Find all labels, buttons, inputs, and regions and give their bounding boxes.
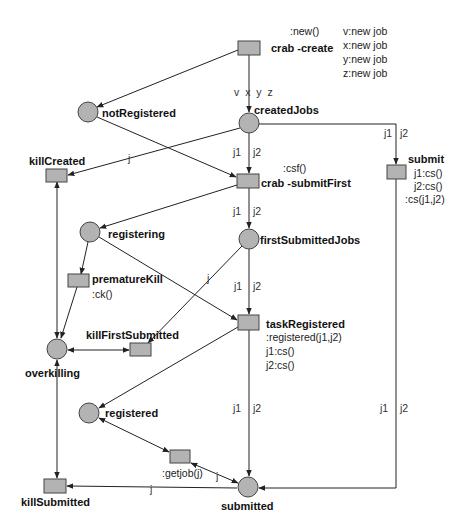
killfirstsubmitted-label: killFirstSubmitted <box>86 329 179 341</box>
submit-annotation-j1: j1:cs() <box>414 167 443 179</box>
arc-label-killcreated-j: j <box>128 152 130 164</box>
submit-annotation-cs: :cs(j1,j2) <box>405 193 445 205</box>
place-createdjobs <box>239 113 259 133</box>
arc-label-firstsubmitted-taskreg-j2: j2 <box>253 280 261 292</box>
transition-killfirstsubmitted <box>130 343 151 356</box>
arc-label-created-submit-j1: j1 <box>384 127 392 139</box>
arc-notregistered-to-submitfirst <box>97 117 236 177</box>
arc-registering-to-prematurekill <box>81 242 88 274</box>
taskregistered-annotation-j1: j1:cs() <box>266 345 295 357</box>
taskregistered-label: taskRegistered <box>266 318 345 330</box>
submitted-label: submitted <box>221 500 274 512</box>
arc-submitfirst-to-registering <box>100 185 237 228</box>
transition-getjob <box>170 450 190 463</box>
overkilling-label: overkilling <box>25 367 80 379</box>
arc-label-created-submitfirst-j2: j2 <box>253 146 261 158</box>
arc-label-submitted-killsubmitted-j: j <box>150 483 152 495</box>
arc-createdjobs-to-submit <box>259 124 396 164</box>
create-output-y: y:new job <box>343 53 387 65</box>
killsubmitted-label: killSubmitted <box>21 496 90 508</box>
submit-annotation-j2: j2:cs() <box>414 180 443 192</box>
killcreated-label: killCreated <box>29 155 85 167</box>
submitfirst-label: crab -submitFirst <box>261 177 351 189</box>
arc-create-to-notregistered <box>97 50 238 107</box>
create-output-z: z:new job <box>343 67 387 79</box>
create-output-x: x:new job <box>343 39 387 51</box>
notregistered-label: notRegistered <box>102 107 176 119</box>
registered-label: registered <box>105 407 158 419</box>
arc-label-firstsubmitted-taskreg-j1: j1 <box>234 280 242 292</box>
arc-label-submitfirst-first-j2: j2 <box>253 205 261 217</box>
arc-label-created-submit-j2: j2 <box>400 127 408 139</box>
registering-label: registering <box>108 228 165 240</box>
prematurekill-label: prematureKill <box>92 273 163 285</box>
firstsubmittedjobs-label: firstSubmittedJobs <box>260 234 360 246</box>
arc-label-created-submitfirst-j1: j1 <box>233 146 241 158</box>
transition-taskregistered <box>238 315 259 330</box>
crab-create-annotation: :new() <box>290 25 319 37</box>
arc-label-submitfirst-first-j1: j1 <box>233 205 241 217</box>
getjob-annotation: :getjob(j) <box>162 467 203 479</box>
place-notregistered <box>78 102 98 122</box>
submit-label: submit <box>408 153 444 165</box>
arc-label-firstsubmitted-killfirst-j: j <box>207 272 209 284</box>
arc-label-taskreg-submitted-j1: j1 <box>233 402 241 414</box>
place-registering <box>80 222 100 242</box>
taskregistered-annotation-j2: j2:cs() <box>266 359 295 371</box>
transition-submit <box>387 165 406 179</box>
place-registered <box>79 403 99 423</box>
prematurekill-annotation: :ck() <box>92 288 112 300</box>
transition-crab-create <box>238 41 260 55</box>
createdjobs-label: createdJobs <box>254 104 319 116</box>
create-output-v: v:new job <box>343 25 387 37</box>
arc-prematurekill-to-overkilling <box>61 287 77 338</box>
arc-label-taskreg-submitted-j2: j2 <box>253 402 261 414</box>
place-firstsubmittedjobs <box>239 229 259 249</box>
arc-label-submit-submitted-j1: j1 <box>380 402 388 414</box>
arc-label-submit-submitted-j2: j2 <box>400 402 408 414</box>
submitfirst-annotation: :csf() <box>283 162 306 174</box>
place-overkilling <box>47 339 67 359</box>
transition-prematurekill <box>68 274 89 287</box>
petri-net-diagram <box>0 0 466 530</box>
place-submitted <box>238 477 258 497</box>
arc-registered-getjob <box>99 418 169 452</box>
arc-label-getjob-submitted-j: j <box>216 470 218 482</box>
taskregistered-annotation-registered: :registered(j1,j2) <box>266 331 342 343</box>
crab-create-label: crab -create <box>271 42 333 54</box>
transition-crab-submitfirst <box>237 174 259 188</box>
arc-label-vxyz: v x y z <box>234 86 273 98</box>
transition-killcreated <box>46 169 67 182</box>
transition-killsubmitted <box>44 479 66 493</box>
